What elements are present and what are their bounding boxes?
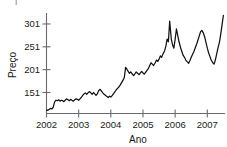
x-tick-label: 2003 xyxy=(68,119,89,130)
y-tick-label: 301 xyxy=(24,18,40,29)
y-tick-label: 201 xyxy=(24,64,40,75)
x-tick-label: 2006 xyxy=(165,119,186,130)
y-tick-label: 251 xyxy=(24,41,40,52)
x-axis-title: Ano xyxy=(129,134,147,145)
chart-figure: 151201251301 200220032004200520062007 Pr… xyxy=(0,0,227,147)
x-tick-label: 2004 xyxy=(100,119,121,130)
y-axis-title: Preço xyxy=(7,52,18,79)
y-tick-label: 151 xyxy=(24,87,40,98)
top-left-scan-artifact xyxy=(16,0,18,5)
x-tick-label: 2002 xyxy=(36,119,57,130)
x-tick-label: 2005 xyxy=(132,119,153,130)
price-year-line-chart: 151201251301 200220032004200520062007 Pr… xyxy=(0,0,227,147)
top-left-tick-artifact xyxy=(16,0,18,5)
x-tick-label: 2007 xyxy=(197,119,218,130)
